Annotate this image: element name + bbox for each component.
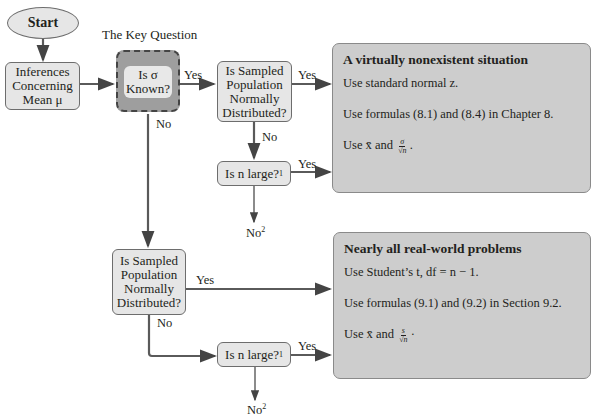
n-large-top-label: Is n large? [225, 167, 279, 181]
normal-top-no-label: No [262, 130, 277, 145]
normal-top-yes-label: Yes [298, 68, 316, 83]
line3-prefix: Use x̄ and [343, 138, 393, 152]
frac-den: √n [398, 147, 406, 155]
result-bottom-line2: Use formulas (9.1) and (9.2) in Section … [344, 296, 580, 311]
n-large-bottom-label: Is n large? [225, 348, 279, 362]
sigma-known-line: Known? [126, 82, 170, 96]
n-large-bottom-no-label: No2 [247, 402, 266, 418]
n-large-top-yes-label: Yes [298, 157, 316, 172]
n-large-top-no-label: No2 [246, 225, 265, 241]
footnote-2: 2 [261, 225, 265, 234]
normal-top-line: Population [226, 78, 282, 92]
result-top-line1: Use standard normal z. [343, 76, 580, 91]
start-label: Start [28, 16, 58, 30]
s-over-root-n: s√n [399, 327, 407, 344]
normal-top-node: Is Sampled Population Normally Distribut… [217, 61, 292, 122]
start-node: Start [7, 7, 79, 39]
inferences-line: Inferences [15, 65, 69, 79]
n-large-top-node: Is n large?1 [217, 161, 291, 186]
result-top-line3: Use x̄ and σ√n . [343, 138, 580, 155]
result-top-heading: A virtually nonexistent situation [343, 52, 580, 68]
line3-suffix: . [410, 138, 413, 152]
normal-bottom-node: Is Sampled Population Normally Distribut… [112, 249, 186, 315]
frac-den: √n [399, 336, 407, 344]
n-large-bottom-node: Is n large?1 [217, 342, 291, 367]
footnote-2: 2 [262, 402, 266, 411]
footnote-1: 1 [279, 348, 283, 362]
result-top-line2: Use formulas (8.1) and (8.4) in Chapter … [343, 107, 580, 122]
sigma-yes-label: Yes [184, 68, 202, 83]
inferences-line: Concerning [12, 79, 73, 93]
sigma-known-line: Is σ [138, 68, 158, 82]
n-large-bottom-yes-label: Yes [298, 339, 316, 354]
inferences-line: Mean μ [23, 93, 63, 107]
line3-prefix: Use x̄ and [344, 327, 394, 341]
normal-top-line: Normally [230, 92, 280, 106]
normal-bottom-line: Distributed? [117, 296, 181, 310]
key-question-title: The Key Question [102, 27, 197, 43]
result-box-top: A virtually nonexistent situation Use st… [332, 43, 591, 193]
sigma-known-inner: Is σ Known? [124, 66, 172, 98]
result-box-bottom: Nearly all real-world problems Use Stude… [333, 232, 591, 379]
no-text: No [246, 226, 261, 240]
line3-suffix: · [411, 327, 415, 341]
normal-bottom-yes-label: Yes [196, 273, 214, 288]
normal-bottom-line: Is Sampled [120, 254, 178, 268]
normal-top-line: Is Sampled [225, 64, 283, 78]
inferences-node: Inferences Concerning Mean μ [5, 62, 80, 110]
sigma-over-root-n: σ√n [398, 138, 406, 155]
result-bottom-line3: Use x̄ and s√n · [344, 327, 580, 344]
footnote-1: 1 [279, 167, 283, 181]
sigma-no-label: No [156, 117, 171, 132]
normal-bottom-line: Population [121, 268, 177, 282]
normal-bottom-no-label: No [157, 316, 172, 331]
sigma-known-node: Is σ Known? [116, 50, 180, 112]
result-bottom-line1: Use Student’s t, df = n − 1. [344, 265, 580, 280]
normal-top-line: Distributed? [222, 106, 286, 120]
normal-bottom-line: Normally [124, 282, 174, 296]
no-text: No [247, 403, 262, 417]
result-bottom-heading: Nearly all real-world problems [344, 241, 580, 257]
